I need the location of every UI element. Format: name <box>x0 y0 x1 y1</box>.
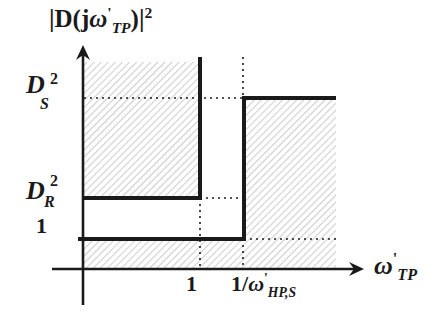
y-label-sup: 2 <box>144 4 152 21</box>
y-tick-dr2-sup: 2 <box>50 172 58 190</box>
y-tick-dr2-sub: R <box>44 193 55 211</box>
forbidden-region-passband-top <box>83 62 200 198</box>
y-tick-ds2-sup: 2 <box>50 70 58 88</box>
forbidden-region-passband-bottom <box>83 239 244 269</box>
forbidden-region-stopband <box>244 98 336 269</box>
inv-omega-prefix: 1/ <box>231 271 248 296</box>
inv-omega-omega: ω <box>248 271 264 296</box>
y-label-suffix: )| <box>131 5 145 32</box>
x-label-sub: TP <box>397 266 417 283</box>
dr2-base: D <box>26 176 45 205</box>
x-label-omega: ω <box>374 251 393 280</box>
y-tick-one: 1 <box>36 213 47 239</box>
y-tick-dr2: D <box>26 178 45 204</box>
x-tick-inv-omega: 1/ω'HP,S <box>231 271 296 301</box>
inv-omega-sub: HP,S <box>268 285 296 300</box>
y-label-omega: ω <box>89 5 107 32</box>
y-tick-ds2-sub: S <box>40 95 49 113</box>
y-label-prefix: |D(j <box>49 5 89 32</box>
x-axis-label: ω'TP <box>374 250 417 284</box>
y-label-sub: TP <box>112 19 131 36</box>
x-tick-one: 1 <box>186 271 197 297</box>
tolerance-diagram <box>0 0 436 320</box>
y-axis-label: |D(jω'TP)|2 <box>49 4 152 37</box>
x-label-prime: ' <box>393 250 397 267</box>
